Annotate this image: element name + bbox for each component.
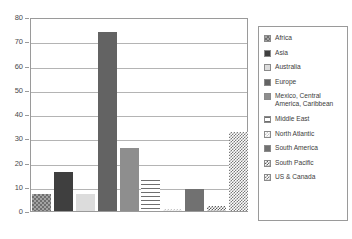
y-tick-label: 40 [15, 111, 23, 119]
legend-swatch-icon [264, 174, 271, 181]
legend-item-label: Africa [275, 34, 292, 42]
legend: AfricaAsiaAustraliaEuropeMexico, Central… [258, 26, 348, 221]
y-tick-label: 0 [19, 208, 23, 216]
y-tick-label: 60 [15, 63, 23, 71]
y-tick-mark [25, 212, 29, 213]
legend-item[interactable]: Africa [264, 34, 347, 42]
legend-item[interactable]: Middle East [264, 115, 347, 123]
plot-area [30, 18, 248, 212]
legend-item-label: Asia [275, 49, 288, 57]
bar-europe [98, 32, 117, 212]
y-tick-mark [25, 67, 29, 68]
legend-item[interactable]: Australia [264, 63, 347, 71]
legend-item[interactable]: Europe [264, 78, 347, 86]
legend-item[interactable]: North Atlantic [264, 130, 347, 138]
legend-item[interactable]: South Pacific [264, 159, 347, 167]
bar-australia [76, 194, 95, 211]
bar-mexico-central-america-caribbean [120, 148, 139, 211]
legend-swatch-icon [264, 93, 271, 100]
legend-swatch-icon [264, 64, 271, 71]
y-tick-mark [25, 42, 29, 43]
y-tick-label: 80 [15, 14, 23, 22]
legend-item-label: US & Canada [275, 173, 315, 181]
y-tick-label: 70 [15, 38, 23, 46]
legend-item[interactable]: South America [264, 144, 347, 152]
bar-asia [54, 172, 73, 211]
y-tick-mark [25, 115, 29, 116]
bar-chart: 01020304050607080 AfricaAsiaAustraliaEur… [0, 0, 352, 239]
legend-swatch-icon [264, 160, 271, 167]
legend-item-label: South Pacific [275, 159, 313, 167]
y-tick-mark [25, 18, 29, 19]
legend-item-label: Europe [275, 78, 296, 86]
y-tick-label: 10 [15, 184, 23, 192]
legend-swatch-icon [264, 145, 271, 152]
legend-item-label: South America [275, 144, 318, 152]
y-tick-mark [25, 139, 29, 140]
legend-swatch-icon [264, 35, 271, 42]
bar-north-atlantic [163, 209, 182, 211]
legend-swatch-icon [264, 50, 271, 57]
y-tick-mark [25, 91, 29, 92]
y-tick-label: 30 [15, 135, 23, 143]
legend-item-label: Australia [275, 63, 301, 71]
y-tick-label: 20 [15, 160, 23, 168]
legend-item-label: Middle East [275, 115, 309, 123]
bar-south-america [185, 189, 204, 211]
y-tick-mark [25, 164, 29, 165]
legend-swatch-icon [264, 116, 271, 123]
bars-layer [31, 19, 247, 211]
legend-swatch-icon [264, 131, 271, 138]
bar-us-canada [229, 132, 248, 211]
y-tick-mark [25, 188, 29, 189]
bar-middle-east [141, 180, 160, 212]
legend-item[interactable]: US & Canada [264, 173, 347, 181]
y-axis: 01020304050607080 [0, 0, 30, 239]
legend-item[interactable]: Asia [264, 49, 347, 57]
y-tick-label: 50 [15, 87, 23, 95]
bar-africa [32, 194, 51, 211]
legend-item-label: North Atlantic [275, 130, 314, 138]
legend-item-label: Mexico, Central America, Caribbean [275, 92, 333, 108]
bar-south-pacific [207, 206, 226, 211]
legend-swatch-icon [264, 79, 271, 86]
legend-item[interactable]: Mexico, Central America, Caribbean [264, 92, 347, 108]
